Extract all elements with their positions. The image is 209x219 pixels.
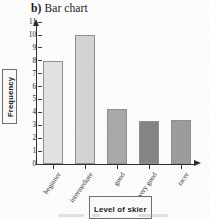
y-axis-tick-label: 5: [32, 94, 36, 104]
scan-edge-artifact: [0, 213, 209, 219]
x-axis-category-label-text: beginner: [42, 171, 63, 196]
x-axis-tick-mark: [149, 165, 150, 169]
x-axis-tick-mark: [85, 165, 86, 169]
bar: [107, 109, 127, 165]
x-axis-category-label-text: very good: [136, 171, 159, 199]
x-axis-category-label-text: good: [112, 171, 127, 187]
bar-series: [37, 19, 197, 164]
y-axis-tick-label: 8: [32, 56, 36, 66]
bar: [75, 35, 95, 164]
x-axis-category-label-text: racer: [176, 171, 191, 187]
chart-title: b) Bar chart: [31, 2, 88, 14]
y-axis-tick-label: 4: [32, 107, 36, 117]
bar-chart-figure: b) Bar chart 01234567891011 beginnerinte…: [0, 0, 209, 219]
y-axis-tick-label: 1: [32, 146, 36, 156]
y-axis-tick-label: 10: [29, 30, 36, 40]
y-axis-title-box: Frequency: [2, 69, 17, 124]
x-axis-tick-mark: [117, 165, 118, 169]
y-axis-tick-label: 9: [32, 43, 36, 53]
y-axis-tick-label: 3: [32, 120, 36, 130]
bar: [139, 121, 159, 164]
y-axis-tick-label: 2: [32, 133, 36, 143]
chart-title-text: Bar chart: [44, 2, 87, 14]
plot-area: 01234567891011 beginnerintermediategoodv…: [36, 19, 203, 165]
y-axis-tick-label: 0: [32, 159, 36, 169]
bar: [171, 120, 191, 164]
y-axis-tick-label: 6: [32, 82, 36, 92]
x-axis-tick-mark: [181, 165, 182, 169]
y-axis-title: Frequency: [5, 76, 14, 116]
chart-title-label: b): [31, 2, 41, 14]
y-axis-tick-label: 7: [32, 69, 36, 79]
x-axis-tick-mark: [53, 165, 54, 169]
bar: [43, 61, 63, 164]
y-axis-tick-label: 11: [29, 17, 36, 27]
